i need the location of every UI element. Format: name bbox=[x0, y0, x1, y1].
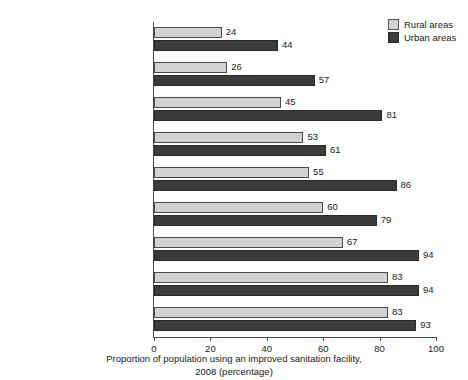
bar-group: 5361 bbox=[154, 132, 436, 156]
bar-urban bbox=[154, 75, 315, 86]
bar-rural bbox=[154, 132, 303, 143]
bar-group: 2444 bbox=[154, 27, 436, 51]
bar-rural bbox=[154, 27, 222, 38]
bar-value-label: 94 bbox=[423, 284, 434, 296]
x-axis-title: Proportion of population using an improv… bbox=[0, 352, 468, 378]
bar-rural bbox=[154, 62, 227, 73]
x-tick-mark bbox=[380, 337, 381, 341]
x-axis-title-line-2: 2008 (percentage) bbox=[0, 365, 468, 378]
bar-urban bbox=[154, 110, 382, 121]
bar-urban bbox=[154, 250, 419, 261]
bar-group: 6794 bbox=[154, 237, 436, 261]
bar-rural bbox=[154, 167, 309, 178]
bar-value-label: 61 bbox=[330, 144, 341, 156]
bar-value-label: 83 bbox=[392, 271, 403, 283]
bar-value-label: 57 bbox=[319, 74, 330, 86]
bar-group: 6079 bbox=[154, 202, 436, 226]
bar-rural bbox=[154, 307, 388, 318]
bar-value-label: 81 bbox=[386, 109, 397, 121]
x-axis-title-line-1: Proportion of population using an improv… bbox=[0, 352, 468, 365]
bar-rural bbox=[154, 237, 343, 248]
bar-value-label: 86 bbox=[401, 179, 412, 191]
x-tick-mark bbox=[154, 337, 155, 341]
bar-urban bbox=[154, 40, 278, 51]
bar-value-label: 83 bbox=[392, 306, 403, 318]
bar-group: 5586 bbox=[154, 167, 436, 191]
bar-value-label: 53 bbox=[307, 131, 318, 143]
bar-group: 2657 bbox=[154, 62, 436, 86]
bar-value-label: 45 bbox=[285, 96, 296, 108]
bar-group: 8393 bbox=[154, 307, 436, 331]
bar-urban bbox=[154, 180, 397, 191]
bar-rural bbox=[154, 272, 388, 283]
bar-rural bbox=[154, 97, 281, 108]
bar-value-label: 26 bbox=[231, 61, 242, 73]
bar-urban bbox=[154, 320, 416, 331]
bar-urban bbox=[154, 215, 377, 226]
bar-rural bbox=[154, 202, 323, 213]
x-axis-line bbox=[153, 337, 436, 338]
bar-group: 8394 bbox=[154, 272, 436, 296]
plot-area: 244426574581536155866079679483948393 020… bbox=[154, 22, 436, 337]
x-tick-mark bbox=[267, 337, 268, 341]
bar-value-label: 24 bbox=[226, 26, 237, 38]
bar-urban bbox=[154, 145, 326, 156]
bar-value-label: 55 bbox=[313, 166, 324, 178]
x-tick-mark bbox=[436, 337, 437, 341]
bar-urban bbox=[154, 285, 419, 296]
x-tick-mark bbox=[210, 337, 211, 341]
bar-value-label: 93 bbox=[420, 319, 431, 331]
bar-value-label: 79 bbox=[381, 214, 392, 226]
x-tick-mark bbox=[323, 337, 324, 341]
bar-group: 4581 bbox=[154, 97, 436, 121]
bar-value-label: 44 bbox=[282, 39, 293, 51]
bar-value-label: 60 bbox=[327, 201, 338, 213]
bar-value-label: 67 bbox=[347, 236, 358, 248]
bar-value-label: 94 bbox=[423, 249, 434, 261]
bar-chart: Rural areas Urban areas 2444265745815361… bbox=[0, 0, 468, 380]
